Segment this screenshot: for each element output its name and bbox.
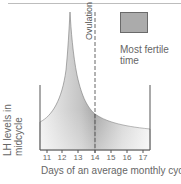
x-tick-15: 15: [107, 153, 116, 162]
legend-label-most-fertile: Most fertile time: [120, 44, 180, 66]
legend-swatch-most-fertile: [120, 12, 148, 33]
y-axis-label: LH levels in midcycle: [2, 98, 42, 156]
x-tick-13: 13: [74, 153, 83, 162]
x-tick-14: 14: [91, 153, 100, 162]
x-tick-17: 17: [139, 153, 148, 162]
x-tick-labels: 11 12 13 14 15 16 17: [0, 153, 181, 165]
ovulation-label: Ovulation: [84, 2, 94, 40]
x-axis-label: Days of an average monthly cycle: [41, 165, 181, 176]
x-tick-16: 16: [123, 153, 132, 162]
x-tick-11: 11: [43, 153, 51, 162]
x-tick-12: 12: [58, 153, 67, 162]
